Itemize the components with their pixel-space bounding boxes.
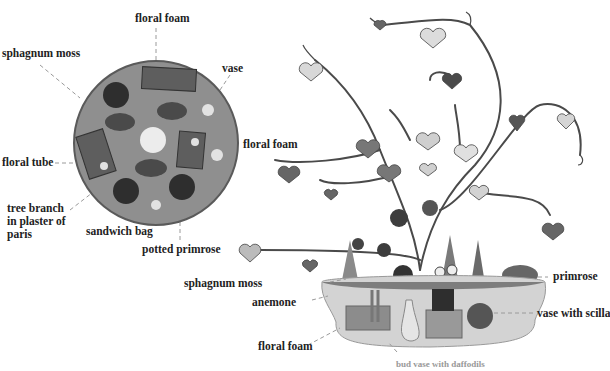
label-floral-foam-top: floral foam — [135, 12, 190, 25]
label-anemone: anemone — [252, 296, 296, 309]
label-sphagnum-moss-side: sphagnum moss — [184, 277, 262, 290]
label-bud-vase-cut-off: bud vase with daffodils — [396, 358, 485, 371]
label-primrose: primrose — [553, 270, 598, 283]
label-sphagnum-moss-top: sphagnum moss — [2, 47, 80, 60]
label-vase: vase — [222, 62, 243, 75]
label-vase-with-scilla: vase with scilla — [537, 307, 610, 320]
label-tree-branch: tree branch in plaster of paris — [7, 202, 69, 241]
label-floral-foam-right: floral foam — [243, 138, 298, 151]
label-floral-foam-side: floral foam — [258, 340, 313, 353]
label-floral-tube: floral tube — [2, 156, 53, 169]
label-potted-primrose: potted primrose — [142, 243, 221, 256]
label-sandwich-bag: sandwich bag — [86, 225, 153, 238]
